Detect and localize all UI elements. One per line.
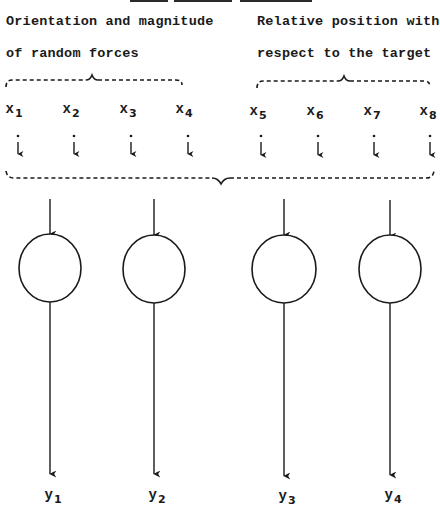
- neuron-input-arrows: [50, 199, 390, 236]
- neuron-2: [123, 235, 185, 303]
- neuron-4: [359, 235, 421, 303]
- neuron-1: [19, 234, 81, 302]
- combined-input-brace: [6, 171, 434, 184]
- input-arrow-x2: [73, 135, 76, 154]
- input-arrow-x1: [17, 135, 20, 154]
- input-arrow-x4: [187, 135, 190, 154]
- input-arrow-x7: [373, 135, 376, 155]
- right-group-brace: [257, 76, 430, 88]
- neuron-output-arrows: [50, 302, 390, 476]
- input-arrow-x6: [317, 135, 320, 155]
- neuron-3: [252, 235, 316, 303]
- input-arrow-x5: [260, 135, 263, 155]
- input-arrows: [17, 135, 432, 155]
- input-arrow-x3: [130, 135, 133, 154]
- input-arrow-x8: [429, 135, 432, 155]
- neurons: [19, 234, 421, 303]
- left-group-brace: [6, 75, 182, 87]
